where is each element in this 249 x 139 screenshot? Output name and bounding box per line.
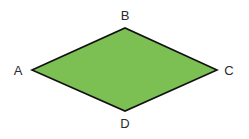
rhombus-diagram: A B C D	[0, 0, 249, 139]
vertex-label-b: B	[121, 8, 130, 23]
vertex-label-d: D	[120, 116, 129, 131]
vertex-label-a: A	[14, 63, 23, 78]
vertex-label-c: C	[224, 63, 233, 78]
rhombus-abcd	[32, 28, 217, 111]
